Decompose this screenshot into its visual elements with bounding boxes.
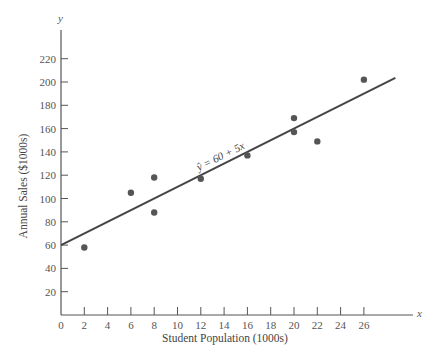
x-tick-label: 20 xyxy=(289,319,301,331)
x-tick-label: 26 xyxy=(358,319,370,331)
x-tick-label: 8 xyxy=(151,319,157,331)
data-point xyxy=(198,175,204,181)
x-tick-label: 0 xyxy=(58,319,64,331)
data-point xyxy=(244,152,250,158)
data-point xyxy=(128,189,134,195)
y-tick-label: 220 xyxy=(40,53,57,65)
x-tick-label: 10 xyxy=(172,319,184,331)
data-point xyxy=(291,129,297,135)
y-tick-label: 200 xyxy=(40,76,57,88)
data-point xyxy=(291,115,297,121)
x-tick-label: 6 xyxy=(128,319,134,331)
y-tick-label: 20 xyxy=(45,286,57,298)
data-point xyxy=(151,174,157,180)
x-tick-label: 22 xyxy=(312,319,323,331)
x-tick-label: 4 xyxy=(105,319,111,331)
regression-line xyxy=(61,78,395,245)
axis-labels: Student Population (1000s) Annual Sales … xyxy=(17,12,422,345)
y-tick-label: 140 xyxy=(40,146,57,158)
data-point xyxy=(314,138,320,144)
x-axis-title: Student Population (1000s) xyxy=(162,332,288,345)
x-tick-label: 2 xyxy=(82,319,88,331)
x-tick-label: 14 xyxy=(219,319,231,331)
data-point xyxy=(361,76,367,82)
data-point xyxy=(151,209,157,215)
axis-ticks: 2040608010012014016018020022002468101214… xyxy=(40,53,370,331)
regression-line-path xyxy=(61,78,395,245)
data-point xyxy=(81,244,87,250)
y-axis-variable: y xyxy=(57,12,63,24)
x-tick-label: 24 xyxy=(335,319,347,331)
y-tick-label: 80 xyxy=(45,216,57,228)
y-tick-label: 180 xyxy=(40,99,57,111)
y-tick-label: 60 xyxy=(45,239,57,251)
y-tick-label: 160 xyxy=(40,123,57,135)
x-tick-label: 12 xyxy=(195,319,206,331)
x-axis-variable: x xyxy=(416,307,422,319)
x-tick-label: 16 xyxy=(242,319,254,331)
y-tick-label: 40 xyxy=(45,262,57,274)
y-tick-label: 120 xyxy=(40,169,57,181)
x-tick-label: 18 xyxy=(265,319,277,331)
axes xyxy=(61,30,413,315)
y-axis-title: Annual Sales ($1000s) xyxy=(17,133,30,238)
y-tick-label: 100 xyxy=(40,193,57,205)
scatter-chart: 2040608010012014016018020022002468101214… xyxy=(0,0,445,361)
